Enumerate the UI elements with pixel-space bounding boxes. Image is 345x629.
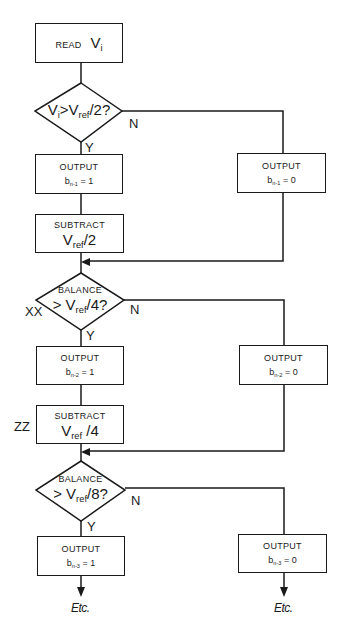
subtract-vref-4-box: SUBTRACT Vref /4 — [36, 405, 124, 444]
yes-label-2: Y — [86, 329, 95, 342]
etc-left: Etc. — [71, 601, 90, 615]
down-arrow-left — [77, 587, 85, 597]
output-bn1-zero-box: OUTPUT bn-1 = 0 — [237, 153, 326, 193]
down-arrow-right — [280, 587, 288, 597]
read-input-box: READ Vi — [35, 23, 123, 63]
decision-2-text: BALANCE > Vref/4? — [36, 285, 124, 313]
read-label: READ — [55, 40, 81, 51]
marker-zz: ZZ — [14, 420, 30, 433]
no-label-1: N — [129, 117, 138, 130]
output-bn1-one-box: OUTPUT bn-1 = 1 — [35, 154, 123, 194]
decision-3-text: BALANCE > Vref/8? — [36, 474, 125, 502]
read-var: Vi — [91, 34, 103, 51]
output-bn3-one-box: OUTPUT bn-3 = 1 — [37, 536, 125, 576]
output-bn3-zero-box: OUTPUT bn-3 = 0 — [238, 534, 327, 573]
merge-arrow-1 — [81, 258, 90, 266]
decision-1-text: Vi>Vref/2? — [35, 101, 123, 119]
merge-arrow-2 — [81, 448, 90, 456]
output-bn2-zero-box: OUTPUT bn-2 = 0 — [239, 345, 328, 385]
no-label-3: N — [131, 494, 140, 507]
marker-xx: XX — [25, 305, 42, 318]
output-bn2-one-box: OUTPUT bn-2 = 1 — [36, 346, 124, 385]
subtract-vref-2-box: SUBTRACT Vref/2 — [35, 214, 124, 253]
no-label-2: N — [130, 303, 139, 316]
yes-label-1: Y — [85, 141, 94, 154]
yes-label-3: Y — [87, 520, 96, 533]
etc-right: Etc. — [274, 601, 293, 615]
